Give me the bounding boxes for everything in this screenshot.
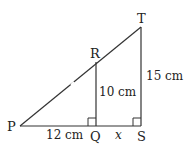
measurement-PQ: 12 cm <box>46 128 84 142</box>
right-angle-Q-icon <box>88 118 96 126</box>
point-label-R: R <box>90 46 101 61</box>
measurement-QS: x <box>115 128 122 142</box>
measurement-QR: 10 cm <box>99 85 137 99</box>
point-label-S: S <box>137 129 146 144</box>
point-label-Q: Q <box>90 129 101 144</box>
point-label-T: T <box>137 11 146 26</box>
point-label-P: P <box>7 119 16 134</box>
similar-triangles-diagram: T R P Q S 12 cm 10 cm 15 cm x <box>0 0 188 148</box>
segment-PT <box>20 27 141 126</box>
right-angle-S-icon <box>133 118 141 126</box>
tick-mark <box>71 82 74 85</box>
measurement-ST: 15 cm <box>146 69 184 83</box>
